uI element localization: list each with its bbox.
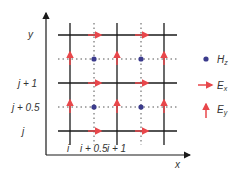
legend: Hz Ex Ey	[198, 54, 228, 118]
axes	[46, 13, 190, 155]
legend-ey: Ey	[217, 104, 228, 117]
solid-grid	[58, 23, 177, 145]
y-tick-j: j	[20, 126, 25, 137]
hz-legend-icon	[203, 56, 208, 61]
y-axis-label: y	[27, 29, 34, 40]
y-tick-j-half: j + 0.5	[10, 102, 40, 113]
legend-ex: Ex	[217, 80, 228, 92]
yee-grid-diagram: y x j j + 0.5 j + 1 i i + 0.5 i + 1 Hz E…	[0, 0, 243, 173]
x-axis-label: x	[174, 159, 181, 170]
dotted-grid	[58, 23, 178, 145]
x-tick-i-half: i + 0.5	[80, 143, 108, 154]
y-tick-j-plus-1: j + 1	[16, 78, 37, 89]
legend-hz: Hz	[217, 54, 228, 66]
x-tick-i-plus-1: i + 1	[107, 143, 126, 154]
